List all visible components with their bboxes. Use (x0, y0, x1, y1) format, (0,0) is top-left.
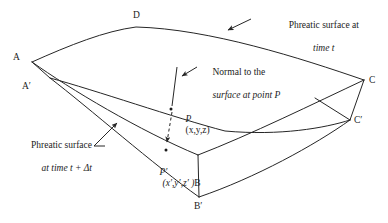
callout-lower-surface: Phreatic surface at time t + Δt (6, 128, 92, 187)
point-p-prime-marker (165, 149, 168, 152)
point-p-prime-coords: (x′,y′,z′ ) (163, 178, 195, 188)
point-p-symbol: P (186, 114, 192, 124)
callout-upper-surface-line2: time t (313, 43, 334, 53)
point-p-coords: (x,y,z) (186, 125, 210, 135)
callout-lower-surface-line2: at time t + Δt (41, 163, 92, 173)
callout-lower-surface-line1: Phreatic surface (31, 140, 92, 150)
leader-normal (182, 67, 197, 76)
vertex-label-b-prime: B′ (194, 201, 202, 213)
callout-normal-line2: surface at point P (213, 90, 281, 100)
leader-upper-surface (228, 19, 251, 30)
point-p-prime-symbol: P′ (160, 167, 168, 177)
phreatic-surface-diagram: Phreatic surface at time t Normal to the… (0, 0, 388, 223)
vertex-label-c-prime: C′ (354, 115, 362, 127)
callout-normal: Normal to the surface at point P (203, 55, 323, 114)
point-p-prime-label: P′ (x′,y′,z′ )B (150, 155, 201, 201)
vertex-label-a: A (13, 52, 20, 64)
point-p-label: P (x,y,z) (176, 102, 210, 148)
leader-lower-surface (94, 123, 117, 146)
lower-surface-front-edge (199, 120, 350, 197)
connector-a-aprime (32, 62, 50, 78)
point-p-marker (170, 108, 173, 111)
normal-line-dashed (167, 112, 172, 142)
vertex-label-d: D (133, 10, 140, 22)
vertex-label-b: B (194, 178, 200, 188)
normal-line-solid (172, 67, 177, 106)
callout-normal-line1: Normal to the (213, 67, 266, 77)
callout-upper-surface-line1: Phreatic surface at (289, 20, 359, 30)
vertex-label-a-prime: A′ (22, 81, 31, 93)
vertex-label-c: C (369, 75, 375, 87)
